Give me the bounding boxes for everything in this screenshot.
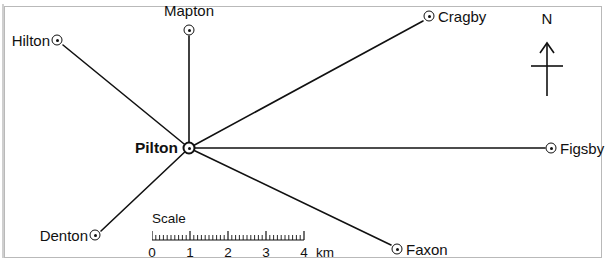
place-marker-denton[interactable] (90, 230, 101, 241)
routes-group (63, 21, 545, 245)
place-label-faxon: Faxon (406, 242, 448, 257)
place-label-denton: Denton (40, 228, 88, 243)
compass-north-label: N (542, 11, 553, 26)
place-marker-pilton[interactable] (183, 142, 196, 155)
place-label-mapton: Mapton (164, 3, 214, 18)
scale-tick-label: 3 (262, 246, 270, 260)
scale-tick-label: 4 (300, 246, 308, 260)
scale-tick-label: 0 (148, 246, 156, 260)
place-marker-figsby[interactable] (546, 143, 557, 154)
scale-tick-label: 2 (224, 246, 232, 260)
scale-ruler-ticks (152, 229, 312, 243)
place-marker-hilton[interactable] (52, 35, 63, 46)
place-marker-mapton[interactable] (184, 25, 195, 36)
scale-tick-label: 1 (186, 246, 194, 260)
place-marker-cragby[interactable] (424, 11, 435, 22)
route-lines-layer (0, 0, 608, 266)
place-label-hilton: Hilton (12, 33, 50, 48)
place-label-pilton: Pilton (135, 140, 178, 156)
place-label-cragby: Cragby (438, 9, 486, 24)
place-label-figsby: Figsby (560, 141, 604, 156)
place-marker-faxon[interactable] (392, 244, 403, 255)
route-line-cragby[interactable] (189, 21, 423, 148)
route-map-figure: Pilton MaptonHiltonCragbyFigsbyFaxonDent… (0, 0, 608, 266)
scale-unit-label: km (316, 246, 334, 260)
scale-caption: Scale (152, 212, 186, 226)
north-arrow-icon (527, 38, 567, 96)
route-line-hilton[interactable] (63, 45, 189, 148)
